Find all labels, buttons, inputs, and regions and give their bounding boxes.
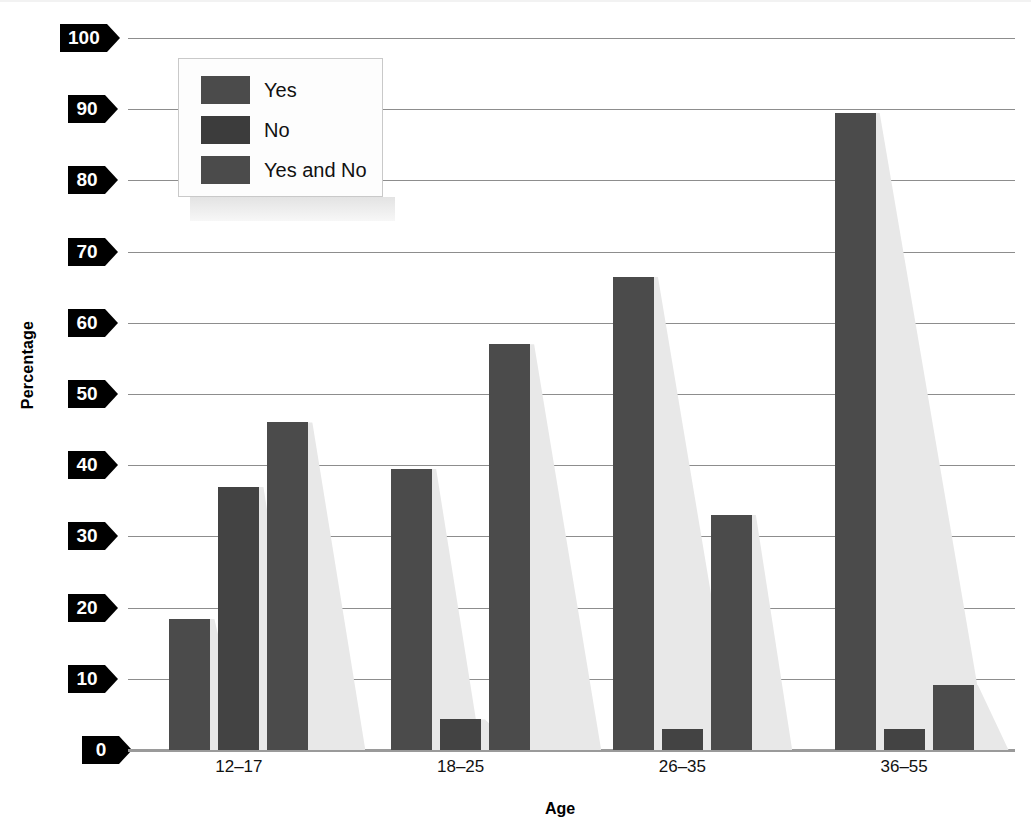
y-tick-100: 100 bbox=[60, 24, 120, 52]
y-tick-label: 90 bbox=[68, 95, 105, 123]
y-tick-label: 30 bbox=[68, 522, 105, 550]
y-tick-10: 10 bbox=[68, 665, 118, 693]
y-tick-pointer-icon bbox=[105, 166, 118, 194]
bar-18-25-yes bbox=[391, 469, 432, 750]
bar-18-25-yes-and-no bbox=[489, 344, 530, 750]
legend-label-no: No bbox=[264, 119, 290, 142]
legend-swatch-yes bbox=[201, 76, 250, 104]
bar-26-35-yes bbox=[613, 277, 654, 750]
x-tick-label: 12–17 bbox=[128, 757, 350, 777]
legend-shadow bbox=[190, 197, 395, 221]
y-tick-60: 60 bbox=[68, 309, 118, 337]
y-tick-pointer-icon bbox=[105, 380, 118, 408]
legend-swatch-yes-and-no bbox=[201, 156, 250, 184]
bar-shadow bbox=[306, 422, 365, 750]
y-tick-pointer-icon bbox=[105, 594, 118, 622]
bar-chart: Percentage Age 1009080706050403020100 12… bbox=[0, 0, 1031, 833]
y-tick-20: 20 bbox=[68, 594, 118, 622]
bar-shadow bbox=[972, 685, 1009, 751]
y-tick-pointer-icon bbox=[105, 95, 118, 123]
legend-swatch-no bbox=[201, 116, 250, 144]
legend-item: Yes bbox=[201, 70, 382, 110]
bar-36-55-yes-and-no bbox=[933, 685, 974, 751]
y-tick-label: 60 bbox=[68, 309, 105, 337]
bar-shadow bbox=[430, 469, 481, 750]
y-tick-pointer-icon bbox=[105, 522, 118, 550]
y-tick-pointer-icon bbox=[105, 309, 118, 337]
bar-26-35-yes-and-no bbox=[711, 515, 752, 750]
bar-12-17-no bbox=[218, 487, 259, 750]
x-tick-label: 18–25 bbox=[350, 757, 572, 777]
y-tick-pointer-icon bbox=[105, 665, 118, 693]
y-tick-label: 50 bbox=[68, 380, 105, 408]
x-axis-title: Age bbox=[120, 800, 1000, 818]
y-tick-pointer-icon bbox=[105, 238, 118, 266]
gridline bbox=[128, 38, 1015, 39]
legend-label-yes-and-no: Yes and No bbox=[264, 159, 367, 182]
chart-legend: Yes No Yes and No bbox=[178, 58, 383, 197]
bar-shadow bbox=[750, 515, 792, 750]
y-tick-40: 40 bbox=[68, 451, 118, 479]
y-tick-label: 80 bbox=[68, 166, 105, 194]
y-tick-pointer-icon bbox=[107, 24, 120, 52]
bar-12-17-yes bbox=[169, 619, 210, 750]
legend-item: Yes and No bbox=[201, 150, 382, 190]
y-tick-pointer-icon bbox=[105, 451, 118, 479]
y-tick-label: 10 bbox=[68, 665, 105, 693]
bar-18-25-no bbox=[440, 719, 481, 750]
bar-shadow bbox=[874, 113, 989, 750]
bar-36-55-yes bbox=[835, 113, 876, 750]
y-tick-90: 90 bbox=[68, 95, 118, 123]
legend-label-yes: Yes bbox=[264, 79, 297, 102]
y-tick-label: 40 bbox=[68, 451, 105, 479]
x-tick-label: 26–35 bbox=[572, 757, 794, 777]
top-edge-divider bbox=[0, 0, 1031, 2]
x-tick-label: 36–55 bbox=[793, 757, 1015, 777]
y-tick-70: 70 bbox=[68, 238, 118, 266]
legend-item: No bbox=[201, 110, 382, 150]
bar-36-55-no bbox=[884, 729, 925, 750]
bar-12-17-yes-and-no bbox=[267, 422, 308, 750]
bar-26-35-no bbox=[662, 729, 703, 750]
y-tick-label: 100 bbox=[60, 24, 107, 52]
x-axis-origin-pointer-icon bbox=[114, 739, 126, 759]
y-tick-80: 80 bbox=[68, 166, 118, 194]
y-tick-50: 50 bbox=[68, 380, 118, 408]
y-axis-title: Percentage bbox=[19, 265, 37, 465]
bar-shadow bbox=[528, 344, 601, 750]
y-tick-label: 20 bbox=[68, 594, 105, 622]
y-tick-label: 70 bbox=[68, 238, 105, 266]
y-tick-30: 30 bbox=[68, 522, 118, 550]
